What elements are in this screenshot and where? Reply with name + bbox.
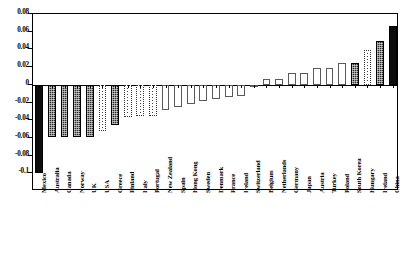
- x-tick-mark: [102, 85, 103, 88]
- bar-usa: [99, 85, 107, 131]
- x-tick-mark: [128, 85, 129, 88]
- bar-ireland: [376, 41, 384, 85]
- x-tick-mark: [367, 85, 368, 88]
- x-tick-label: UK: [91, 183, 98, 193]
- y-tick-label: 0.02: [0, 62, 29, 69]
- x-tick-label: Italy: [142, 180, 149, 193]
- y-tick-label: 0.04: [0, 45, 29, 52]
- x-tick-label: France: [230, 174, 237, 193]
- x-tick-mark: [191, 85, 192, 88]
- x-tick-mark: [241, 85, 242, 88]
- x-tick-mark: [229, 85, 230, 88]
- bar-japan: [300, 73, 308, 85]
- bar-spain: [174, 85, 182, 107]
- x-tick-mark: [178, 85, 179, 88]
- bar-canada: [61, 85, 69, 137]
- bar-uk: [86, 85, 94, 137]
- x-tick-label: South Korea: [356, 159, 363, 194]
- x-tick-mark: [166, 85, 167, 88]
- bar-greece: [111, 85, 119, 125]
- x-tick-mark: [355, 85, 356, 88]
- x-tick-mark: [304, 85, 305, 88]
- x-tick-mark: [90, 85, 91, 88]
- x-tick-mark: [65, 85, 66, 88]
- x-tick-label: Netherlands: [281, 160, 288, 193]
- bar-new-zealand: [162, 85, 170, 111]
- x-tick-label: Hungary: [369, 168, 376, 193]
- x-tick-label: Belgium: [268, 170, 275, 193]
- x-tick-mark: [153, 85, 154, 88]
- x-tick-mark: [52, 85, 53, 88]
- x-tick-label: Poland: [344, 174, 351, 193]
- x-tick-label: Canada: [66, 172, 73, 193]
- x-tick-label: USA: [104, 180, 111, 193]
- x-tick-mark: [266, 85, 267, 88]
- x-tick-mark: [330, 85, 331, 88]
- x-tick-label: Sweden: [205, 172, 212, 193]
- x-tick-mark: [342, 85, 343, 88]
- x-tick-mark: [203, 85, 204, 88]
- bar-poland: [338, 63, 346, 85]
- x-tick-label: Norway: [79, 171, 86, 193]
- bar-germany: [288, 73, 296, 85]
- x-tick-label: Spain: [180, 177, 187, 193]
- y-tick-label: 0.06: [0, 27, 29, 34]
- x-tick-mark: [317, 85, 318, 88]
- x-tick-label: Hong Kong: [192, 161, 199, 193]
- x-tick-label: Germany: [293, 167, 300, 193]
- x-tick-mark: [380, 85, 381, 88]
- bar-south-korea: [351, 63, 359, 85]
- x-tick-mark: [39, 85, 40, 88]
- x-tick-mark: [292, 85, 293, 88]
- bar-australia: [48, 85, 56, 137]
- x-tick-label: Japan: [306, 176, 313, 193]
- x-tick-mark: [115, 85, 116, 88]
- y-tick-label: -0.04: [0, 116, 29, 123]
- y-tick-label: 0.08: [0, 9, 29, 16]
- bar-china: [389, 26, 397, 85]
- x-tick-label: Switzerland: [255, 160, 262, 193]
- bar-italy: [136, 85, 144, 116]
- x-tick-label: Greece: [117, 174, 124, 193]
- x-tick-label: Ireland: [382, 173, 389, 193]
- x-tick-label: Ireland: [243, 173, 250, 193]
- x-tick-mark: [393, 85, 394, 88]
- bar-finland: [124, 85, 132, 117]
- x-tick-label: China: [394, 176, 401, 193]
- x-tick-label: New Zealand: [167, 157, 174, 193]
- y-tick-label: -0.08: [0, 151, 29, 158]
- chart-figure: 0.080.060.040.020-0.02-0.04-0.06-0.08-0.…: [0, 0, 415, 263]
- x-tick-label: Turkey: [331, 173, 338, 193]
- y-tick-label: -0.1: [0, 169, 29, 176]
- bar-hungary: [364, 50, 372, 85]
- bar-austria: [313, 68, 321, 85]
- x-tick-mark: [140, 85, 141, 88]
- x-tick-label: Austria: [319, 172, 326, 193]
- y-tick-label: -0.06: [0, 133, 29, 140]
- x-tick-label: Australia: [54, 168, 61, 193]
- y-tick-label: -0.02: [0, 98, 29, 105]
- bar-turkey: [326, 68, 334, 85]
- bar-mexico: [35, 85, 43, 174]
- y-tick-label: 0: [0, 80, 29, 87]
- x-tick-mark: [216, 85, 217, 88]
- x-tick-mark: [77, 85, 78, 88]
- x-tick-label: Finland: [129, 172, 136, 193]
- x-tick-label: Mexico: [41, 173, 48, 193]
- x-tick-label: Portugal: [154, 169, 161, 193]
- bar-norway: [73, 85, 81, 137]
- x-tick-mark: [279, 85, 280, 88]
- x-tick-mark: [254, 85, 255, 88]
- x-tick-label: Denmark: [218, 167, 225, 193]
- plot-area: [32, 13, 398, 190]
- bar-portugal: [149, 85, 157, 116]
